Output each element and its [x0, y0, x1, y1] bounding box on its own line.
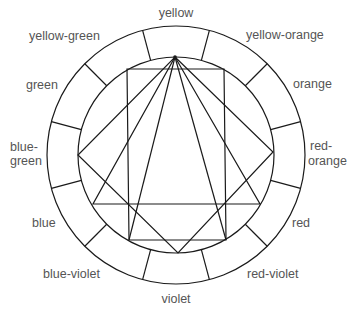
color-label: yellow — [159, 6, 195, 20]
color-labels: yellowyellow-orangeorangered-orangeredre… — [10, 6, 347, 306]
apex-line — [129, 57, 175, 240]
segment-divider — [245, 64, 267, 86]
segment-divider — [143, 250, 151, 280]
inner-ring — [78, 57, 274, 253]
segment-divider — [143, 30, 151, 60]
triangle-shape — [93, 57, 260, 204]
color-label: orange — [293, 77, 332, 91]
rectangle-shape — [127, 69, 226, 240]
color-label: red- — [310, 139, 332, 153]
segment-divider — [201, 30, 209, 60]
color-label: yellow-green — [29, 29, 100, 43]
color-label: blue — [32, 216, 56, 230]
color-label: yellow-orange — [246, 28, 324, 42]
color-label: blue-violet — [43, 267, 101, 281]
segment-divider — [51, 122, 81, 130]
color-label: green — [26, 78, 58, 92]
color-label: orange — [308, 154, 347, 168]
segment-divider — [271, 180, 301, 188]
color-label: violet — [161, 292, 191, 306]
segment-divider — [245, 224, 267, 246]
apex-point — [173, 55, 177, 59]
color-label: blue- — [10, 140, 38, 154]
segment-divider — [51, 180, 81, 188]
apex-line — [175, 57, 226, 240]
segment-divider — [201, 250, 209, 280]
color-label: green — [10, 154, 42, 168]
segment-divider — [271, 122, 301, 130]
segment-dividers — [51, 30, 300, 279]
segment-divider — [85, 224, 107, 246]
square-shape — [78, 57, 273, 253]
segment-divider — [85, 64, 107, 86]
color-label: red-violet — [247, 267, 299, 281]
color-wheel-diagram: yellowyellow-orangeorangered-orangeredre… — [0, 0, 359, 317]
color-label: red — [292, 216, 310, 230]
